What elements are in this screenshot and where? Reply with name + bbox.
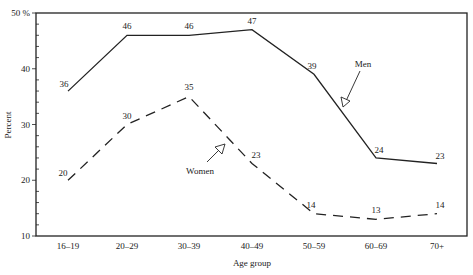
women-arrow-line xyxy=(207,149,220,162)
men-data-label: 39 xyxy=(308,61,318,71)
men-data-label: 46 xyxy=(123,21,133,31)
plot-frame xyxy=(36,13,467,236)
women-data-label: 13 xyxy=(372,205,382,215)
x-tick-label: 50–59 xyxy=(303,241,326,251)
women-data-label: 30 xyxy=(123,111,133,121)
y-tick-label: 50 % xyxy=(11,8,30,18)
y-axis: 1020304050 % xyxy=(11,8,39,241)
y-tick-label: 10 xyxy=(21,231,31,241)
y-tick-label: 40 xyxy=(21,64,31,74)
men-data-label: 36 xyxy=(60,79,70,89)
women-annotation-label: Women xyxy=(186,166,214,176)
x-tick-label: 16–19 xyxy=(57,241,80,251)
men-data-label: 23 xyxy=(436,151,446,161)
women-data-label: 23 xyxy=(252,150,262,160)
men-arrow-head-icon xyxy=(341,97,350,107)
women-data-label: 14 xyxy=(307,200,317,210)
x-axis-title: Age group xyxy=(233,258,272,268)
x-axis: 16–1920–2930–3940–4950–5960–6970+ xyxy=(57,241,444,251)
x-tick-label: 20–29 xyxy=(116,241,139,251)
x-tick-label: 40–49 xyxy=(241,241,264,251)
men-annotation-label: Men xyxy=(355,59,372,69)
y-axis-title: Percent xyxy=(3,111,13,138)
women-data-label: 14 xyxy=(436,200,446,210)
men-data-label: 24 xyxy=(375,145,385,155)
y-tick-label: 30 xyxy=(21,120,31,130)
x-tick-label: 70+ xyxy=(430,241,444,251)
annotations: MenWomen xyxy=(186,59,372,176)
series-lines xyxy=(68,30,437,220)
series-men-line xyxy=(68,30,437,164)
line-chart: 1020304050 % 16–1920–2930–3940–4950–5960… xyxy=(0,0,473,275)
men-data-label: 47 xyxy=(248,16,258,26)
men-data-label: 46 xyxy=(185,21,195,31)
men-arrow-line xyxy=(346,71,360,101)
y-tick-label: 20 xyxy=(21,175,31,185)
women-data-label: 35 xyxy=(185,82,195,92)
x-tick-label: 30–39 xyxy=(178,241,201,251)
women-data-label: 20 xyxy=(59,168,69,178)
x-tick-label: 60–69 xyxy=(365,241,388,251)
